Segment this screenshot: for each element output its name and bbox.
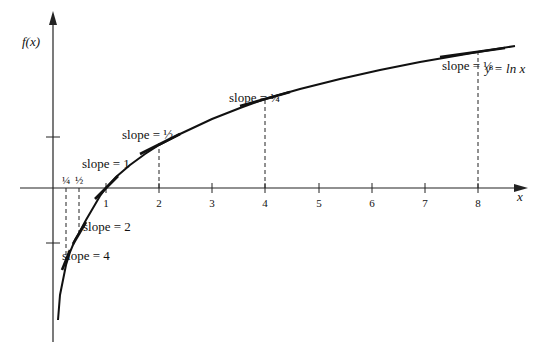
y-axis-arrow-icon (49, 11, 57, 25)
x-axis-label: x (516, 189, 523, 204)
slope-label-4: slope = 4 (62, 248, 110, 263)
x-tick-label-quarter: ¼ (62, 174, 70, 186)
x-tick-label-half: ½ (75, 174, 83, 186)
y-axis-label: f(x) (22, 34, 40, 49)
x-tick-label: 8 (475, 197, 481, 209)
chart-svg: 1 2 3 4 5 6 7 8 ¼ ½ f(x) x y = ln x slop… (0, 0, 545, 354)
slope-label-1: slope = 1 (82, 156, 130, 171)
x-tick-label: 4 (262, 197, 268, 209)
slope-label-half: slope = ½ (122, 127, 173, 142)
ln-chart: 1 2 3 4 5 6 7 8 ¼ ½ f(x) x y = ln x slop… (0, 0, 545, 354)
x-tick-label: 1 (103, 197, 109, 209)
slope-label-2: slope = 2 (83, 219, 131, 234)
slope-label-eighth: slope = ⅛ (442, 58, 493, 73)
x-tick-label: 5 (316, 197, 322, 209)
x-tick-label: 7 (422, 197, 428, 209)
x-tick-label: 3 (209, 197, 215, 209)
x-tick-label: 6 (369, 197, 375, 209)
x-tick-label: 2 (156, 197, 162, 209)
ln-curve (58, 46, 515, 320)
slope-label-quarter: slope = ¼ (229, 90, 280, 105)
